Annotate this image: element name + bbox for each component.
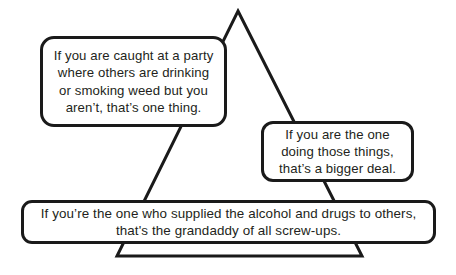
callout-box-top-left: If you are caught at a party where other… — [40, 36, 227, 127]
diagram-canvas: If you are caught at a party where other… — [0, 0, 456, 275]
callout-text-middle-right: If you are the one doing those things, t… — [273, 126, 402, 177]
callout-box-middle-right: If you are the one doing those things, t… — [261, 121, 414, 182]
callout-text-bottom: If you’re the one who supplied the alcoh… — [33, 205, 425, 240]
callout-text-top-left: If you are caught at a party where other… — [48, 47, 220, 116]
callout-box-bottom: If you’re the one who supplied the alcoh… — [21, 200, 436, 244]
